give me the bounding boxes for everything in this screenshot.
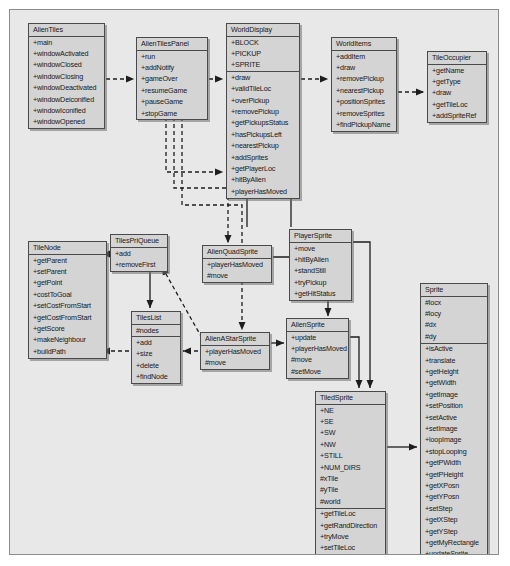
uml-member: +getXStep xyxy=(421,515,487,526)
uml-member: +SE xyxy=(316,416,385,427)
uml-member: +stopGame xyxy=(137,108,207,119)
uml-member: +getMyRectangle xyxy=(421,538,487,549)
uml-class-tile-node[interactable]: TileNode+getParent+setParent+getPoint+co… xyxy=(28,241,107,359)
uml-class-name-alien-sprite: AlienSprite xyxy=(287,319,348,332)
uml-member: +setImage xyxy=(421,423,487,434)
connector-panel-to-world-display-playerhasmoved xyxy=(166,117,223,172)
uml-member: +getTileLoc xyxy=(428,99,486,110)
uml-class-tiles-list[interactable]: TilesList#nodes+add+size+delete+findNode xyxy=(131,311,181,384)
uml-compartment: +move+hitByAlien+standStill+tryPickup+ge… xyxy=(290,243,351,300)
uml-member: +windowActivated xyxy=(29,48,104,59)
uml-compartment: +getName+getType+draw+getTileLoc+addSpri… xyxy=(428,65,486,122)
uml-member: +windowOpened xyxy=(29,117,104,128)
uml-class-alien-sprite[interactable]: AlienSprite+update+playerHasMoved#move#s… xyxy=(286,318,349,379)
uml-compartment: #locx#locy#dx#dy xyxy=(421,297,487,344)
uml-member: +findPickupName xyxy=(332,119,396,130)
uml-compartment: +add+removeFirst xyxy=(111,248,167,271)
uml-member: +main xyxy=(29,37,104,48)
uml-compartment: +BLOCK+PICKUP+SPRITE xyxy=(227,37,299,72)
uml-member: +getCostFromStart xyxy=(29,312,106,323)
uml-member: +getType xyxy=(428,76,486,87)
uml-member: #dx xyxy=(421,320,487,331)
uml-member: +nearestPickup xyxy=(227,141,299,152)
uml-class-world-display[interactable]: WorldDisplay+BLOCK+PICKUP+SPRITE+draw+va… xyxy=(226,23,300,199)
uml-member: +draw xyxy=(428,88,486,99)
uml-member: +getPickupsStatus xyxy=(227,118,299,129)
uml-member: +hitByAlien xyxy=(227,175,299,186)
uml-member: +getHitStatus xyxy=(290,289,351,300)
uml-compartment: +main+windowActivated+windowClosed+windo… xyxy=(29,37,104,128)
uml-compartment: +NE+SE+SW+NW+STILL+NUM_DIRS#xTile#yTile#… xyxy=(316,405,385,509)
uml-member: +delete xyxy=(132,360,180,371)
uml-member: +removePickup xyxy=(227,106,299,117)
uml-class-world-items[interactable]: WorldItems+addItem+draw+removePickup+nea… xyxy=(331,37,397,132)
uml-member: +removeSprites xyxy=(332,108,396,119)
uml-class-tile-occupier[interactable]: TileOccupier+getName+getType+draw+getTil… xyxy=(427,51,487,123)
uml-member: +NUM_DIRS xyxy=(316,462,385,473)
uml-member: +getScore xyxy=(29,323,106,334)
uml-member: +windowClosed xyxy=(29,60,104,71)
uml-member: +addItem xyxy=(332,51,396,62)
uml-member: +getImage xyxy=(421,389,487,400)
uml-member: +getYPosn xyxy=(421,492,487,503)
uml-member: #nodes xyxy=(132,325,180,336)
uml-class-name-alien-tiles-panel: AlienTilesPanel xyxy=(137,38,207,51)
uml-member: +add xyxy=(132,337,180,348)
uml-member: +translate xyxy=(421,355,487,366)
uml-member: +getXPosn xyxy=(421,481,487,492)
uml-member: +tryPickup xyxy=(290,277,351,288)
uml-class-name-tiled-sprite: TiledSprite xyxy=(316,392,385,405)
uml-member: +run xyxy=(137,51,207,62)
uml-member: #move xyxy=(287,355,348,366)
uml-member: +addNotify xyxy=(137,62,207,73)
uml-compartment: +update+playerHasMoved#move#setMove xyxy=(287,332,348,378)
uml-member: +hitByAlien xyxy=(290,254,351,265)
uml-compartment: +addItem+draw+removePickup+nearestPickup… xyxy=(332,51,396,131)
uml-member: +playerHasMoved xyxy=(201,346,269,357)
uml-member: +playerHasMoved xyxy=(287,343,348,354)
uml-member: #dy xyxy=(421,331,487,342)
uml-member: +setActive xyxy=(421,412,487,423)
uml-member: #move xyxy=(201,357,269,368)
uml-member: #setMove xyxy=(287,366,348,377)
uml-member: +setTileLoc xyxy=(316,543,385,554)
uml-member: +SPRITE xyxy=(227,60,299,71)
uml-member: +playerHasMoved xyxy=(227,186,299,197)
uml-class-sprite[interactable]: Sprite#locx#locy#dx#dy+isActive+translat… xyxy=(420,283,488,555)
uml-member: +getTileLoc xyxy=(316,509,385,520)
uml-member: +windowDeactivated xyxy=(29,83,104,94)
uml-member: +windowDeiconified xyxy=(29,94,104,105)
uml-class-tiled-sprite[interactable]: TiledSprite+NE+SE+SW+NW+STILL+NUM_DIRS#x… xyxy=(315,391,386,555)
uml-class-player-sprite[interactable]: PlayerSprite+move+hitByAlien+standStill+… xyxy=(289,229,352,301)
uml-member: +setPosition xyxy=(421,401,487,412)
uml-compartment: +getParent+setParent+getPoint+costToGoal… xyxy=(29,255,106,358)
uml-member: +hasPickupsLeft xyxy=(227,129,299,140)
uml-member: +overPickup xyxy=(227,95,299,106)
uml-class-alien-quad-sprite[interactable]: AlienQuadSprite+playerHasMoved#move xyxy=(202,245,272,283)
uml-member: +getYStep xyxy=(421,526,487,537)
uml-member: +getParent xyxy=(29,255,106,266)
uml-member: +resumeGame xyxy=(137,85,207,96)
uml-member: +whichQuadrant xyxy=(316,554,385,555)
connector-panel-to-alien-quad-sprite xyxy=(174,117,228,243)
uml-class-alien-tiles-panel[interactable]: AlienTilesPanel+run+addNotify+gameOver+r… xyxy=(136,37,208,120)
uml-class-tiles-pri-queue[interactable]: TilesPriQueue+add+removeFirst xyxy=(110,234,168,272)
uml-class-alien-astar-sprite[interactable]: AlienAStarSprite+playerHasMoved#move xyxy=(200,332,270,370)
uml-class-name-tile-occupier: TileOccupier xyxy=(428,52,486,65)
uml-class-alien-tiles[interactable]: AlienTiles+main+windowActivated+windowCl… xyxy=(28,23,105,129)
uml-member: +removeFirst xyxy=(111,259,167,270)
uml-class-name-player-sprite: PlayerSprite xyxy=(290,230,351,243)
uml-class-name-sprite: Sprite xyxy=(421,284,487,297)
uml-compartment: +isActive+translate+getHeight+getWidth+g… xyxy=(421,344,487,555)
uml-member: +nearestPickup xyxy=(332,85,396,96)
uml-class-name-alien-astar-sprite: AlienAStarSprite xyxy=(201,333,269,346)
uml-member: +pauseGame xyxy=(137,97,207,108)
uml-member: #locx xyxy=(421,297,487,308)
uml-member: +getPWidth xyxy=(421,458,487,469)
uml-class-name-tile-node: TileNode xyxy=(29,242,106,255)
uml-compartment: #nodes xyxy=(132,325,180,337)
uml-member: +NW xyxy=(316,439,385,450)
uml-member: #locy xyxy=(421,308,487,319)
uml-compartment: +playerHasMoved#move xyxy=(203,259,271,282)
uml-member: +size xyxy=(132,349,180,360)
